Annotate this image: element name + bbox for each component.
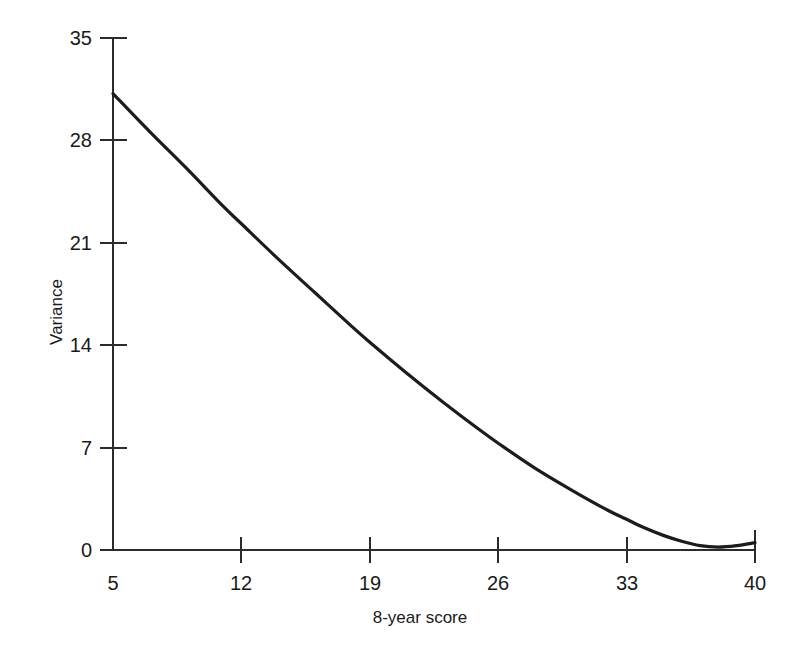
y-tick-label-0: 0 (81, 539, 92, 561)
y-tick-label-14: 14 (70, 334, 92, 356)
x-tick-label-19: 19 (359, 572, 381, 594)
y-tick-label-21: 21 (70, 232, 92, 254)
x-axis-title: 8-year score (373, 608, 467, 627)
x-tick-label-40: 40 (744, 572, 766, 594)
chart-figure: 35 28 21 14 7 0 5 12 19 26 33 40 8-year … (0, 0, 794, 648)
x-tick-label-5: 5 (107, 572, 118, 594)
y-tick-label-7: 7 (81, 437, 92, 459)
variance-vs-8-year-score-chart: 35 28 21 14 7 0 5 12 19 26 33 40 8-year … (0, 0, 794, 648)
x-tick-label-12: 12 (230, 572, 252, 594)
x-tick-label-33: 33 (616, 572, 638, 594)
x-tick-label-26: 26 (487, 572, 509, 594)
y-tick-label-28: 28 (70, 129, 92, 151)
y-tick-label-35: 35 (70, 27, 92, 49)
y-axis-title: Variance (47, 279, 66, 345)
